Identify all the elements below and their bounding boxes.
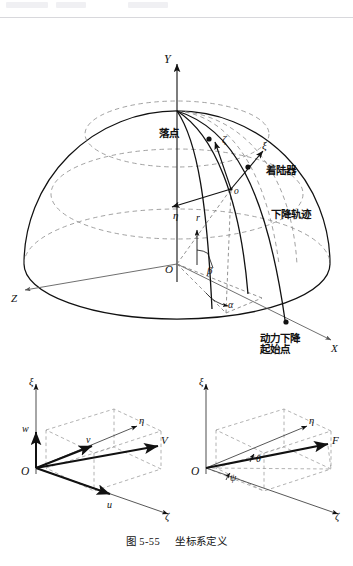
sub-right-origin-label: O <box>191 465 200 477</box>
sub-right-axis-label-eta: η <box>309 415 314 426</box>
sub-left-origin-label: O <box>21 465 30 477</box>
axis-X: X <box>177 264 339 354</box>
axis-label-X: X <box>330 342 339 354</box>
axis-label-Z: Z <box>11 292 18 304</box>
figure-area: Y X Z O r <box>0 22 353 522</box>
landing-point-label: 落点 <box>159 127 180 139</box>
sub-left-vector-label-w: w <box>22 423 29 434</box>
descent-trajectory-label: 下降轨迹 <box>271 208 312 220</box>
sub-left-axes: ξ η ζ <box>29 376 170 523</box>
sub-left-axis-label-eta: η <box>139 415 144 426</box>
local-frame: ζ ξ η o <box>172 133 267 221</box>
sub-diagram-right-svg: ξ η ζ F θ ψ O <box>176 374 348 524</box>
local-axis-label-xi: ξ <box>262 139 267 152</box>
descent-trajectory-curves <box>177 111 285 320</box>
header-ghost-left <box>6 2 48 8</box>
sub-right-vectors: F <box>206 434 339 468</box>
sub-diagram-left-svg: ξ η ζ w v u V O <box>6 374 178 524</box>
angle-construction-lines <box>177 189 262 313</box>
sub-right-axes: ξ η ζ <box>199 376 340 523</box>
sub-right-vector-label-F: F <box>331 434 339 446</box>
header-ghost-right <box>128 2 168 8</box>
sub-left-vectors: w v u V <box>22 423 169 510</box>
lander-marker: 着陆器 <box>245 164 297 176</box>
landing-point: 落点 <box>159 127 212 142</box>
axis-label-Y: Y <box>164 52 172 66</box>
sub-right-axis-label-xi: ξ <box>199 376 204 388</box>
lander-label: 着陆器 <box>265 164 297 176</box>
axis-Z: Z <box>11 264 177 304</box>
angle-alpha: α <box>206 293 234 310</box>
sub-right-axis-label-zeta: ζ <box>335 511 340 523</box>
figure-caption-prefix: 图 5-55 <box>126 536 160 547</box>
powered-descent-start: 动力下降 起始点 <box>259 319 301 355</box>
local-origin-label-o: o <box>234 186 239 196</box>
sub-left-axis-label-zeta: ζ <box>165 511 170 523</box>
angle-label-theta: θ <box>256 453 261 464</box>
radius-line: r <box>177 189 231 264</box>
page-canvas: Y X Z O r <box>0 0 353 566</box>
header-ghost-mid <box>56 2 86 8</box>
angle-label-alpha: α <box>228 299 234 310</box>
origin-label-O: O <box>165 263 173 275</box>
powered-descent-line2: 起始点 <box>259 343 291 355</box>
sub-left-vector-label-V: V <box>161 434 169 446</box>
sub-left-vector-label-v: v <box>86 434 91 445</box>
sub-left-vector-label-u: u <box>107 499 112 510</box>
header-divider <box>0 17 353 18</box>
angle-label-psi: ψ <box>230 472 237 483</box>
figure-caption: 图 5-55 坐标系定义 <box>0 533 353 548</box>
radius-label-r: r <box>196 212 200 223</box>
angle-beta: β <box>197 230 213 276</box>
local-axis-label-eta: η <box>173 209 178 221</box>
main-diagram-svg: Y X Z O r <box>0 22 353 362</box>
figure-caption-title: 坐标系定义 <box>175 535 227 547</box>
sub-left-axis-label-xi: ξ <box>29 376 34 388</box>
